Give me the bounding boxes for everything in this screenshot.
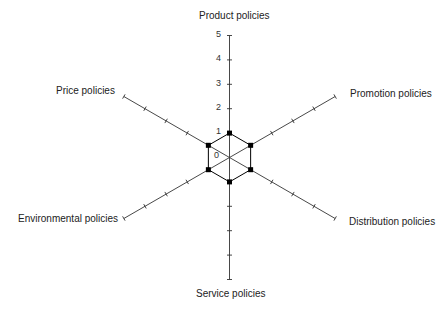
axis-label-distribution: Distribution policies [349, 216, 435, 227]
tick-label-3: 3 [216, 78, 221, 88]
data-point-marker [227, 131, 232, 136]
data-point-marker [206, 143, 211, 148]
data-point-marker [248, 167, 253, 172]
data-point-marker [227, 179, 232, 184]
tick-label-2: 2 [216, 102, 221, 112]
tick-label-0: 0 [214, 150, 219, 160]
axis-line [230, 97, 336, 158]
axis-line [124, 158, 230, 219]
data-point-marker [206, 167, 211, 172]
axis-label-service: Service policies [196, 288, 265, 299]
radar-chart [0, 0, 443, 313]
axis-line [230, 158, 336, 219]
tick-label-5: 5 [216, 29, 221, 39]
axis-line [124, 97, 230, 158]
axis-label-environmental: Environmental policies [18, 213, 118, 224]
axis-label-price: Price policies [56, 85, 115, 96]
axis-label-product: Product policies [199, 10, 270, 21]
tick-label-1: 1 [216, 126, 221, 136]
data-point-marker [248, 143, 253, 148]
tick-label-4: 4 [216, 53, 221, 63]
axis-label-promotion: Promotion policies [350, 88, 432, 99]
